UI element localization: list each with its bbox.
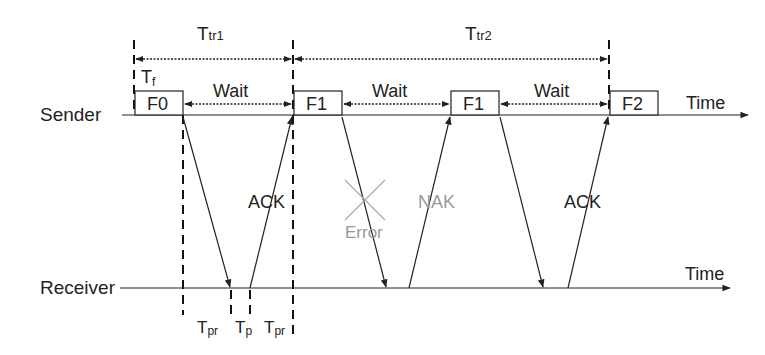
svg-text:F0: F0 (147, 94, 168, 114)
error-cross-icon (345, 180, 385, 220)
frame-f2: F2 (610, 91, 658, 115)
arq-diagram: Ttr1 Ttr2 Tf Sender Time F0 F1 F1 F2 Wai… (0, 0, 765, 355)
f1-transmission-arrow (342, 117, 386, 287)
tpr-right-label: Tpr (264, 318, 285, 338)
svg-text:Wait: Wait (213, 81, 248, 101)
f0-transmission-arrow (183, 117, 230, 287)
svg-text:F1: F1 (463, 94, 484, 114)
ttr1-interval: Ttr1 (136, 23, 291, 59)
receiver-time-label: Time (685, 264, 724, 284)
tf-label: Tf (141, 67, 156, 89)
nak-label: NAK (418, 192, 455, 212)
ttr2-interval: Ttr2 (295, 23, 607, 59)
wait-interval-1: Wait (185, 81, 291, 104)
frame-f1-first: F1 (294, 91, 342, 115)
frame-f0: F0 (135, 91, 183, 115)
wait-interval-3: Wait (501, 81, 607, 104)
error-label: Error (345, 223, 383, 242)
svg-text:Wait: Wait (372, 81, 407, 101)
ack1-label: ACK (248, 192, 285, 212)
ack2-label: ACK (564, 192, 601, 212)
ttr1-label: Ttr1 (197, 23, 224, 44)
f1-retransmission-arrow (500, 117, 543, 287)
tpr-left-label: Tpr (197, 318, 218, 338)
svg-text:F1: F1 (306, 94, 327, 114)
sender-label: Sender (40, 104, 102, 125)
tp-label: Tp (235, 318, 252, 338)
svg-text:Wait: Wait (534, 81, 569, 101)
sender-time-label: Time (686, 93, 725, 113)
receiver-label: Receiver (40, 277, 116, 298)
ttr2-label: Ttr2 (465, 23, 492, 44)
frame-f1-retransmit: F1 (451, 91, 499, 115)
wait-interval-2: Wait (344, 81, 449, 104)
svg-text:F2: F2 (622, 94, 643, 114)
